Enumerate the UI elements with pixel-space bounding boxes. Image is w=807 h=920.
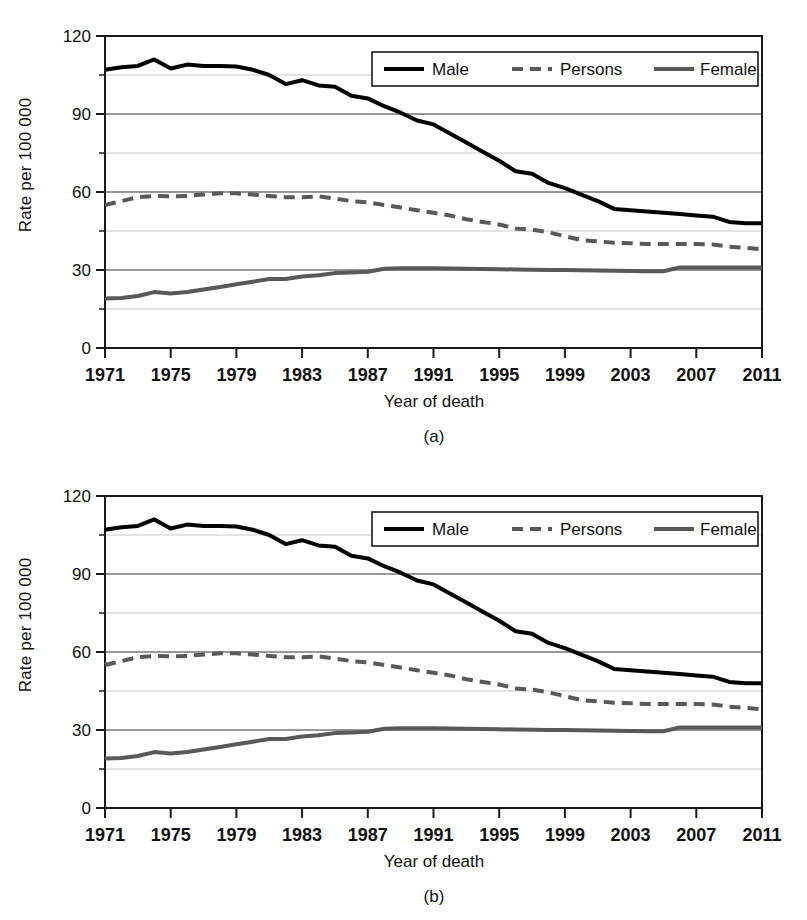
- y-tick-label: 0: [82, 339, 91, 358]
- legend-label-persons: Persons: [560, 520, 622, 539]
- y-tick-label: 0: [82, 799, 91, 818]
- x-tick-label: 1975: [151, 365, 191, 385]
- x-tick-label: 1979: [216, 825, 256, 845]
- x-tick-label: 1987: [348, 825, 388, 845]
- x-axis-label-b: Year of death: [105, 852, 763, 872]
- series-line-persons: [105, 653, 762, 709]
- x-tick-label: 1983: [282, 825, 322, 845]
- plot-area-b: 0306090120197119751979198319871991199519…: [0, 460, 807, 860]
- x-tick-label: 2007: [676, 365, 716, 385]
- y-tick-label: 30: [72, 261, 91, 280]
- x-tick-label: 2007: [676, 825, 716, 845]
- legend-label-persons: Persons: [560, 60, 622, 79]
- x-tick-label: 1991: [413, 365, 453, 385]
- x-tick-label: 2011: [742, 365, 781, 385]
- y-tick-label: 90: [72, 565, 91, 584]
- x-tick-label: 1995: [479, 365, 519, 385]
- legend-label-female: Female: [700, 60, 757, 79]
- x-tick-label: 1983: [282, 365, 322, 385]
- x-tick-label: 2003: [611, 825, 651, 845]
- figure-container: Rate per 100 000 03060901201971197519791…: [0, 0, 807, 920]
- x-tick-label: 1995: [479, 825, 519, 845]
- line-chart-svg-b: 0306090120197119751979198319871991199519…: [0, 460, 807, 860]
- y-tick-label: 60: [72, 183, 91, 202]
- x-tick-label: 2011: [742, 825, 781, 845]
- x-tick-label: 1987: [348, 365, 388, 385]
- legend-label-male: Male: [432, 520, 469, 539]
- panel-caption-b: (b): [105, 887, 763, 907]
- series-line-female: [105, 727, 762, 758]
- series-line-persons: [105, 193, 762, 249]
- x-tick-label: 1971: [85, 825, 125, 845]
- x-tick-label: 1991: [413, 825, 453, 845]
- y-tick-label: 30: [72, 721, 91, 740]
- x-tick-label: 1979: [216, 365, 256, 385]
- x-tick-label: 1999: [545, 825, 585, 845]
- chart-panel-a: Rate per 100 000 03060901201971197519791…: [0, 0, 807, 460]
- line-chart-svg-a: 0306090120197119751979198319871991199519…: [0, 0, 807, 400]
- x-axis-label-a: Year of death: [105, 392, 763, 412]
- x-tick-label: 1999: [545, 365, 585, 385]
- y-tick-label: 90: [72, 105, 91, 124]
- x-tick-label: 1971: [85, 365, 125, 385]
- plot-area-a: 0306090120197119751979198319871991199519…: [0, 0, 807, 400]
- legend-label-female: Female: [700, 520, 757, 539]
- x-tick-label: 1975: [151, 825, 191, 845]
- legend-label-male: Male: [432, 60, 469, 79]
- y-tick-label: 120: [63, 27, 91, 46]
- y-tick-label: 120: [63, 487, 91, 506]
- y-tick-label: 60: [72, 643, 91, 662]
- panel-caption-a: (a): [105, 427, 763, 447]
- chart-panel-b: Rate per 100 000 03060901201971197519791…: [0, 460, 807, 920]
- series-line-female: [105, 267, 762, 298]
- x-tick-label: 2003: [611, 365, 651, 385]
